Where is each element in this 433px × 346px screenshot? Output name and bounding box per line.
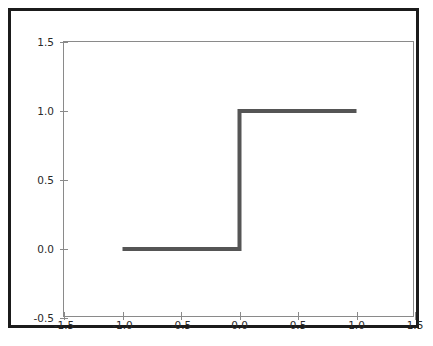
x-tick-label: -1.0 bbox=[112, 320, 133, 331]
figure-border: -1.5-1.0-0.50.00.51.01.5 -0.50.00.51.01.… bbox=[8, 8, 419, 328]
y-tick-mark-inner bbox=[64, 318, 68, 319]
y-tick-label: 1.0 bbox=[37, 106, 54, 117]
x-tick-label: 0.0 bbox=[231, 320, 248, 331]
x-tick-label: 0.5 bbox=[290, 320, 307, 331]
plot-axes: -1.5-1.0-0.50.00.51.01.5 -0.50.00.51.01.… bbox=[63, 41, 414, 317]
y-tick-label: 0.5 bbox=[37, 175, 54, 186]
x-tick-label: 1.5 bbox=[407, 320, 424, 331]
y-tick-label: 0.0 bbox=[37, 244, 54, 255]
step-function-line bbox=[123, 111, 357, 249]
x-tick-label: 1.0 bbox=[348, 320, 365, 331]
y-tick-label: -0.5 bbox=[34, 313, 55, 324]
y-tick-label: 1.5 bbox=[37, 37, 54, 48]
x-tick-mark-inner bbox=[415, 312, 416, 316]
data-series-layer bbox=[64, 42, 415, 318]
figure-canvas: -1.5-1.0-0.50.00.51.01.5 -0.50.00.51.01.… bbox=[0, 0, 433, 346]
series-polyline bbox=[123, 111, 357, 249]
x-tick-label: -0.5 bbox=[171, 320, 192, 331]
x-tick-label: -1.5 bbox=[54, 320, 75, 331]
